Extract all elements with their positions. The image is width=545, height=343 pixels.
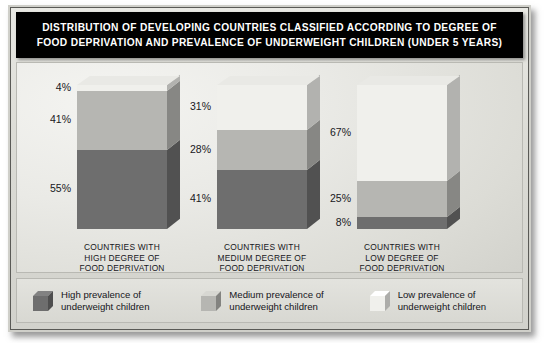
bar-segment-medium: [357, 181, 447, 217]
legend-label-line-1: Low prevalence of: [398, 289, 487, 301]
low-prevalence-swatch: [370, 291, 390, 311]
category-label-line-2: MEDIUM DEGREE OF: [192, 253, 332, 264]
bar-segment-medium: [217, 130, 307, 170]
value-label-low-3: 67%: [317, 126, 351, 138]
value-label-high-2: 41%: [177, 192, 211, 204]
bar-segment-top: [217, 76, 320, 85]
chart-title-bar: DISTRIBUTION OF DEVELOPING COUNTRIES CLA…: [16, 12, 523, 58]
legend-label-1: High prevalence ofunderweight children: [61, 289, 150, 312]
bar-segment-low: [357, 85, 447, 181]
bar-segment-front: [217, 130, 307, 170]
swatch-front: [370, 296, 385, 311]
bar-segment-top: [357, 76, 460, 85]
bar-segment-front: [77, 91, 167, 150]
category-label-line-3: FOOD DEPRIVATION: [52, 263, 192, 273]
bar-segment-side: [167, 81, 180, 150]
bar-segment-low: [217, 85, 307, 130]
bar-segment-low: [77, 85, 167, 91]
category-label-line-1: COUNTRIES WITH: [52, 242, 192, 253]
page-title-line-2: FOOD DEPRIVATION AND PREVALENCE OF UNDER…: [37, 35, 503, 50]
value-label-low-2: 31%: [177, 100, 211, 112]
legend-label-line-2: underweight children: [61, 301, 150, 313]
bar-segment-front: [77, 150, 167, 229]
legend-label-2: Medium prevalence ofunderweight children: [229, 289, 323, 312]
medium-prevalence-swatch: [201, 291, 221, 311]
legend-label-3: Low prevalence ofunderweight children: [398, 289, 487, 312]
category-label-line-3: FOOD DEPRIVATION: [332, 263, 472, 273]
legend-item-2: Medium prevalence ofunderweight children: [185, 289, 353, 312]
legend-item-3: Low prevalence ofunderweight children: [354, 289, 522, 312]
category-label-3: COUNTRIES WITHLOW DEGREE OFFOOD DEPRIVAT…: [332, 242, 472, 273]
bar-segment-front: [357, 217, 447, 229]
value-label-medium-2: 28%: [177, 143, 211, 155]
value-label-medium-3: 25%: [317, 192, 351, 204]
category-label-1: COUNTRIES WITHHIGH DEGREE OFFOOD DEPRIVA…: [52, 242, 192, 273]
category-label-line-1: COUNTRIES WITH: [192, 242, 332, 253]
bar-segment-front: [357, 181, 447, 217]
value-label-medium-1: 41%: [37, 113, 71, 125]
high-prevalence-swatch: [33, 291, 53, 311]
bar-segment-side: [447, 75, 460, 182]
bar-segment-top: [77, 76, 180, 85]
bar-segment-medium: [77, 91, 167, 150]
bar-segment-front: [217, 170, 307, 229]
bar-segment-high: [77, 150, 167, 229]
category-label-line-3: FOOD DEPRIVATION: [192, 263, 332, 273]
plot-area: 55%41%4%COUNTRIES WITHHIGH DEGREE OFFOOD…: [16, 62, 523, 273]
value-label-low-1: 4%: [37, 81, 71, 93]
swatch-side: [216, 291, 221, 311]
legend-item-1: High prevalence ofunderweight children: [17, 289, 185, 312]
swatch-front: [33, 296, 48, 311]
value-label-high-3: 8%: [317, 216, 351, 228]
stacked-bar-3: [357, 85, 447, 229]
bar-segment-high: [357, 217, 447, 229]
category-label-line-2: LOW DEGREE OF: [332, 253, 472, 264]
bar-segment-front: [357, 85, 447, 181]
legend-label-line-1: High prevalence of: [61, 289, 150, 301]
swatch-side: [48, 291, 53, 311]
stacked-bar-1: [77, 85, 167, 229]
stacked-bar-2: [217, 85, 307, 229]
category-label-line-2: HIGH DEGREE OF: [52, 253, 192, 264]
bar-segment-front: [77, 85, 167, 91]
legend-label-line-2: underweight children: [398, 301, 487, 313]
swatch-front: [201, 296, 216, 311]
chart-screenshot: DISTRIBUTION OF DEVELOPING COUNTRIES CLA…: [0, 0, 545, 343]
category-label-2: COUNTRIES WITHMEDIUM DEGREE OFFOOD DEPRI…: [192, 242, 332, 273]
bar-segment-high: [217, 170, 307, 229]
page-title-line-1: DISTRIBUTION OF DEVELOPING COUNTRIES CLA…: [42, 20, 497, 35]
value-label-high-1: 55%: [37, 182, 71, 194]
legend-label-line-2: underweight children: [229, 301, 323, 313]
chart-legend: High prevalence ofunderweight childrenMe…: [16, 278, 523, 323]
category-label-line-1: COUNTRIES WITH: [332, 242, 472, 253]
legend-label-line-1: Medium prevalence of: [229, 289, 323, 301]
bar-segment-front: [217, 85, 307, 130]
